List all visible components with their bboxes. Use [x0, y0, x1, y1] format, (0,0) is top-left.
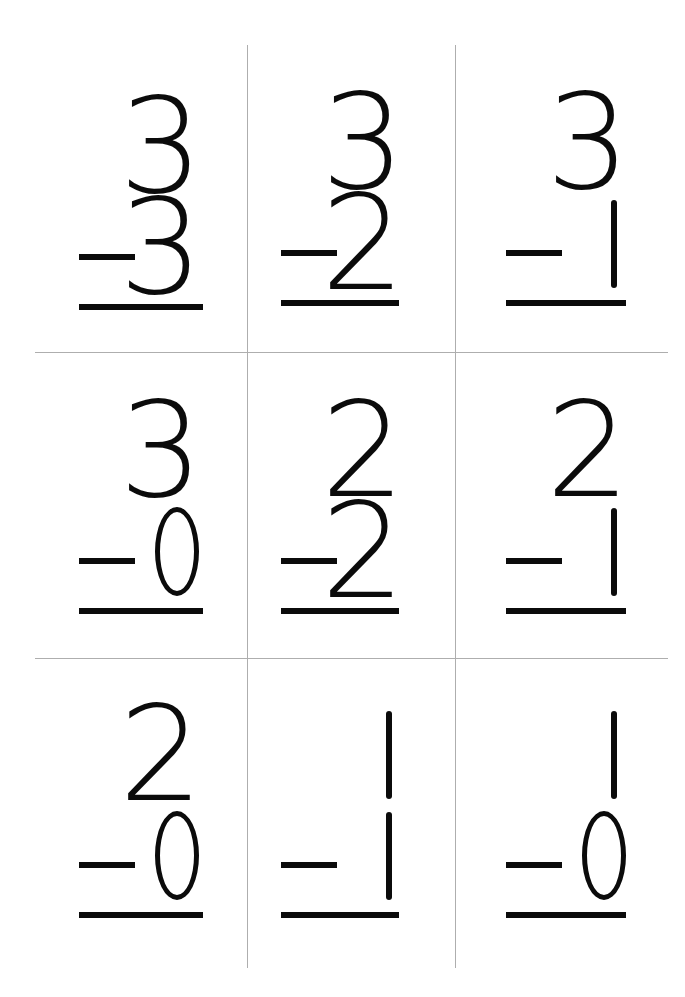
minus-operator-icon [281, 250, 337, 256]
flashcard-cell[interactable]: 2 0 [0, 658, 247, 997]
subtrahend-row: 1 [281, 805, 405, 906]
minus-operator-icon [79, 254, 135, 260]
minus-operator-icon [506, 250, 562, 256]
minuend-row: 3 [79, 400, 203, 501]
subtrahend-digit: 1 [353, 805, 405, 906]
minus-operator-icon [79, 862, 135, 868]
answer-rule[interactable] [281, 912, 399, 918]
subtrahend-digit: 0 [147, 501, 203, 602]
minuend-digit: 3 [546, 92, 630, 193]
minuend-row: 2 [506, 400, 630, 501]
minus-operator-icon [506, 862, 562, 868]
subtrahend-row: 3 [79, 197, 203, 298]
minuend-digit: 2 [546, 400, 630, 501]
minuend-row: 3 [506, 92, 630, 193]
subtraction-problem: 2 0 [79, 704, 203, 918]
subtrahend-digit: 2 [321, 193, 405, 294]
answer-rule[interactable] [506, 608, 626, 614]
subtrahend-row: 2 [281, 193, 405, 294]
minus-operator-icon [79, 558, 135, 564]
subtraction-problem: 3 3 [79, 96, 203, 310]
subtrahend-digit: 0 [574, 805, 630, 906]
minuend-digit: 2 [119, 704, 203, 805]
subtraction-problem: 3 2 [281, 92, 405, 306]
minuend-digit: 1 [353, 704, 405, 805]
subtraction-problem: 2 2 [281, 400, 405, 614]
flashcard-cell[interactable]: 1 0 [455, 658, 685, 997]
subtrahend-row: 1 [506, 501, 630, 602]
flashcard-cell[interactable]: 3 2 [247, 0, 455, 352]
subtraction-problem: 3 1 [506, 92, 630, 306]
answer-rule[interactable] [506, 300, 626, 306]
subtrahend-row: 0 [79, 805, 203, 906]
subtrahend-digit: 1 [578, 193, 630, 294]
subtraction-problem: 1 1 [281, 704, 405, 918]
flashcard-cell[interactable]: 2 1 [455, 352, 685, 658]
subtrahend-digit: 1 [578, 501, 630, 602]
flashcard-cell[interactable]: 1 1 [247, 658, 455, 997]
subtraction-problem: 2 1 [506, 400, 630, 614]
subtrahend-digit: 0 [147, 805, 203, 906]
subtrahend-row: 1 [506, 193, 630, 294]
minuend-row: 2 [79, 704, 203, 805]
subtrahend-row: 0 [506, 805, 630, 906]
answer-rule[interactable] [506, 912, 626, 918]
subtraction-problem: 1 0 [506, 704, 630, 918]
answer-rule[interactable] [79, 912, 203, 918]
flashcard-grid: 3 3 3 2 [0, 0, 685, 997]
subtrahend-digit: 2 [321, 501, 405, 602]
minus-operator-icon [281, 862, 337, 868]
minus-operator-icon [506, 558, 562, 564]
flashcard-cell[interactable]: 3 3 [0, 0, 247, 352]
minuend-row: 1 [506, 704, 630, 805]
subtraction-problem: 3 0 [79, 400, 203, 614]
flashcard-cell[interactable]: 3 1 [455, 0, 685, 352]
minuend-digit: 3 [119, 400, 203, 501]
flashcard-cell[interactable]: 2 2 [247, 352, 455, 658]
flashcard-cell[interactable]: 3 0 [0, 352, 247, 658]
minuend-digit: 1 [578, 704, 630, 805]
minuend-row: 1 [281, 704, 405, 805]
minus-operator-icon [281, 558, 337, 564]
subtrahend-row: 0 [79, 501, 203, 602]
subtrahend-row: 2 [281, 501, 405, 602]
answer-rule[interactable] [79, 608, 203, 614]
subtrahend-digit: 3 [119, 197, 203, 298]
worksheet-page: 3 3 3 2 [0, 0, 685, 997]
